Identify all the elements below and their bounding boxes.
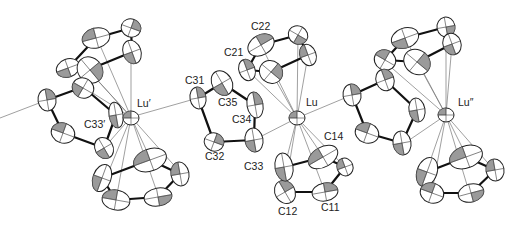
label-c21: C21 <box>224 46 243 58</box>
unit-center: Lu C31 C35 C34 C32 C33 C21 C22 C14 C11 C… <box>185 20 356 217</box>
atom-ellipsoid <box>456 181 486 205</box>
label-c33-prime: C33′ <box>84 118 105 130</box>
atom-ellipsoid <box>91 134 118 162</box>
atom-ellipsoid <box>119 16 144 40</box>
label-lu: Lu <box>306 96 318 108</box>
label-lu-prime: Lu′ <box>137 97 151 109</box>
atom-ellipsoid <box>297 42 320 68</box>
atom-ellipsoid-c21 <box>236 57 259 83</box>
atom-ellipsoid <box>255 56 288 88</box>
atom-lu-double-prime <box>438 108 454 122</box>
atom-ellipsoid <box>143 186 174 209</box>
ortep-diagram: Lu′ C33′ <box>0 0 522 225</box>
atom-ellipsoid <box>89 162 115 194</box>
atom-ellipsoid-c11 <box>311 181 340 203</box>
unit-right: Lu″ <box>341 16 506 207</box>
label-lu-double-prime: Lu″ <box>458 96 474 108</box>
atom-lu-prime <box>123 111 139 125</box>
label-c31: C31 <box>185 74 204 86</box>
label-c33: C33 <box>244 160 263 172</box>
atom-ellipsoid <box>388 24 421 52</box>
atom-ellipsoid <box>341 83 363 108</box>
atom-ellipsoid <box>399 44 436 80</box>
atom-ellipsoid <box>36 88 58 113</box>
atom-ellipsoid-c31 <box>188 86 208 110</box>
atom-ellipsoid <box>407 97 427 123</box>
atom-ellipsoid <box>391 130 413 157</box>
atom-ellipsoid <box>48 119 77 146</box>
atom-ellipsoid-c14 <box>304 140 342 173</box>
label-c32: C32 <box>205 150 224 162</box>
atom-ellipsoid <box>446 141 485 173</box>
unit-left: Lu′ C33′ <box>36 16 191 212</box>
atom-lu <box>289 111 305 125</box>
label-c12: C12 <box>278 205 297 217</box>
atom-ellipsoid <box>273 152 296 183</box>
label-c35: C35 <box>218 96 237 108</box>
atom-ellipsoid-c33 <box>243 127 265 154</box>
atom-ellipsoid <box>130 144 169 176</box>
atom-ellipsoid <box>80 25 112 52</box>
atom-ellipsoid-c33-prime <box>107 101 125 129</box>
label-c34: C34 <box>232 113 251 125</box>
atom-ellipsoid <box>119 38 144 67</box>
label-c11: C11 <box>321 201 340 213</box>
atom-ellipsoid <box>352 119 381 146</box>
atom-ellipsoid <box>100 188 131 213</box>
label-c14: C14 <box>324 130 343 142</box>
label-c22: C22 <box>251 20 270 32</box>
atom-ellipsoid-c35 <box>207 67 237 100</box>
atom-ellipsoid-c22 <box>244 29 278 60</box>
